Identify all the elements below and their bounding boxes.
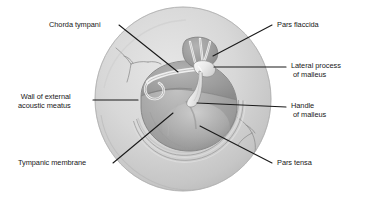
label-handle-of-malleus-line1: Handle: [291, 101, 314, 110]
label-pars-tensa-text: Pars tensa: [277, 158, 312, 167]
label-chorda-tympani-text: Chorda tympani: [49, 20, 100, 29]
label-wall-of-external-acoustic-meatus-line2: acoustic meatus: [18, 102, 71, 111]
label-lateral-process-of-malleus-line1: Lateral process: [291, 61, 341, 70]
label-pars-flaccida: Pars flaccida: [277, 21, 319, 30]
figure-canvas: Chorda tympani Wall of external acoustic…: [0, 0, 366, 197]
label-tympanic-membrane: Tympanic membrane: [18, 159, 86, 168]
label-lateral-process-of-malleus: Lateral process of malleus: [291, 62, 341, 79]
label-pars-tensa: Pars tensa: [277, 159, 312, 168]
label-handle-of-malleus-line2: of malleus: [291, 111, 326, 120]
label-tympanic-membrane-text: Tympanic membrane: [18, 158, 86, 167]
label-pars-flaccida-text: Pars flaccida: [277, 20, 319, 29]
label-handle-of-malleus: Handle of malleus: [291, 102, 326, 119]
label-chorda-tympani: Chorda tympani: [49, 21, 100, 30]
label-wall-of-external-acoustic-meatus: Wall of external acoustic meatus: [18, 93, 71, 110]
label-lateral-process-of-malleus-line2: of malleus: [291, 71, 341, 80]
label-wall-of-external-acoustic-meatus-line1: Wall of external: [21, 92, 71, 101]
